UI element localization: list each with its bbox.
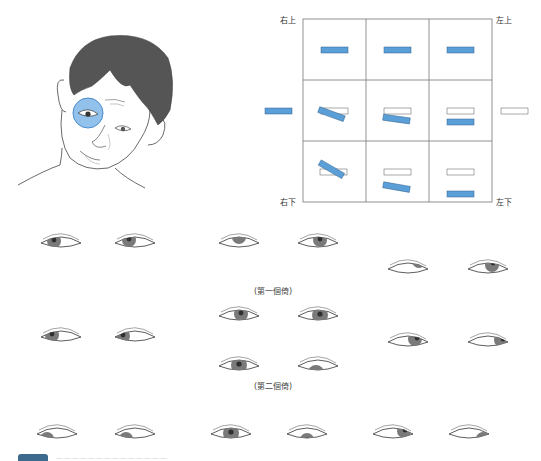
corner-label-top-right: 左上 [496,14,512,25]
bar-r1c1 [321,47,348,53]
corner-label-bottom-left: 右下 [280,196,296,207]
eye-pairs [37,230,508,447]
footer-caption: …………………………………… [56,453,168,461]
boy-face-illustration [18,35,173,188]
bar-r1c3 [447,47,474,53]
caption-second-tilt: (第二個倚) [254,380,292,391]
parks-three-step-grid [265,19,528,202]
bar-outside-right [501,108,528,114]
corner-label-top-left: 右上 [280,14,296,25]
footer-badge [18,454,48,461]
bar-outside-left [265,108,292,114]
figure-canvas [0,0,541,461]
caption-first-tilt: (第一個倚) [254,285,292,296]
bar-r1c2 [384,47,411,53]
corner-label-bottom-right: 左下 [496,196,512,207]
